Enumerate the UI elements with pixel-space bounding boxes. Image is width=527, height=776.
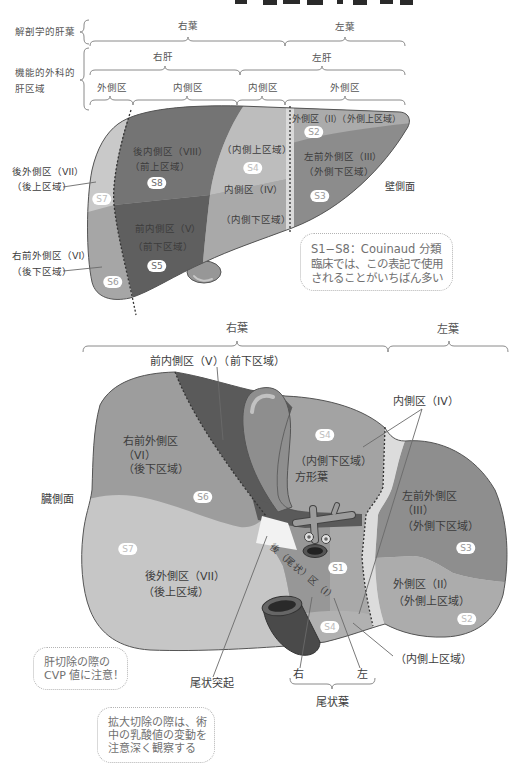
brace-right-lobe-bottom xyxy=(83,341,388,352)
lactate-note-line2: 中の乳酸値の変動を xyxy=(108,729,214,742)
segment-s4-quadrate-region xyxy=(277,385,385,515)
label-s6-name: 右前外側区 xyxy=(123,436,178,447)
caudate-right-label: 右 xyxy=(293,669,304,680)
badge-s7: S7 xyxy=(118,543,137,555)
badge-s2: S2 xyxy=(304,126,323,138)
label-s6-area: （後下区域） xyxy=(123,464,189,475)
caudate-left-label: 左 xyxy=(357,669,368,680)
header-section-right-lateral: 外側区 xyxy=(97,83,127,93)
brace-section-3 xyxy=(237,96,285,105)
label-s6-number: （VI） xyxy=(123,450,156,461)
header-section-left-medial: 内側区 xyxy=(248,83,278,93)
label-s5-name: 前内側区（V） xyxy=(135,224,202,234)
badge-s6: S6 xyxy=(103,276,122,288)
badge-s4: S4 xyxy=(243,162,262,174)
badge-s4: S4 xyxy=(315,429,334,441)
header-right-liver: 右肝 xyxy=(153,52,173,62)
brace-anatomical-vertical xyxy=(80,20,89,44)
badge-s5: S5 xyxy=(147,260,166,272)
brace-left-liver xyxy=(240,66,405,75)
badge-s8: S8 xyxy=(147,177,166,189)
bottom-left-lobe-label: 左葉 xyxy=(437,324,459,335)
brace-right-liver xyxy=(90,66,240,75)
brace-section-4 xyxy=(285,96,405,105)
label-s3-name: 左前外側区 xyxy=(402,491,457,502)
visceral-surface-label: 臓側面 xyxy=(41,494,74,505)
brace-left-lobe xyxy=(285,37,405,46)
badge-s1: S1 xyxy=(328,562,347,574)
callout-s4: 内側区（IV） xyxy=(393,396,459,407)
label-s4-area: （内側下区域） xyxy=(295,456,372,467)
label-s7-area: （後上区域） xyxy=(143,587,209,598)
lactate-note-box: 拡大切除の際は、術 中の乳酸値の変動を 注意深く観察する xyxy=(97,707,215,763)
couinaud-note-line2: 臨床では、この表記で使用 xyxy=(311,257,452,272)
brace-functional-vertical xyxy=(80,48,89,110)
parietal-surface-label: 壁側面 xyxy=(385,182,415,192)
brace-left-lobe-bottom xyxy=(388,341,508,352)
label-s3-area: （外側下区域） xyxy=(402,521,479,532)
label-s3-number: （III） xyxy=(402,505,434,516)
side-label-s7-area: （後上区域） xyxy=(12,182,72,192)
label-quadrate-lobe: 方形葉 xyxy=(295,472,328,483)
badge-s2: S2 xyxy=(457,613,476,625)
header-left-lobe: 左葉 xyxy=(335,22,355,32)
badge-s4-lower: S4 xyxy=(320,621,339,633)
side-label-s6-area: （後下区域） xyxy=(12,267,72,277)
header-braces xyxy=(80,20,405,110)
brace-section-1 xyxy=(90,96,133,105)
label-s4-name: 内側区（IV） xyxy=(224,185,283,195)
label-s5-area: （前下区域） xyxy=(133,242,193,252)
badge-s6: S6 xyxy=(193,491,212,503)
label-s4-lower-area: （内側下区域） xyxy=(221,215,291,225)
couinaud-note-line3: されることがいちばん多い xyxy=(311,271,452,286)
brace-section-2 xyxy=(133,96,237,105)
badge-s3: S3 xyxy=(456,542,475,554)
callout-caudate-process: 尾状突起 xyxy=(190,678,234,689)
header-left-liver: 左肝 xyxy=(312,53,332,63)
side-label-s6-name: 右前外側区（VI） xyxy=(12,251,91,261)
lactate-note-line1: 拡大切除の際は、術 xyxy=(108,716,214,729)
label-s2-area: （外側上区域） xyxy=(393,596,470,607)
header-right-lobe: 右葉 xyxy=(178,21,198,31)
label-s3-area: （外側下区域） xyxy=(304,167,374,177)
cvp-note-box: 肝切除の際の CVP 値に注意！ xyxy=(33,647,128,690)
label-s3-name: 左前外側区（III） xyxy=(304,152,382,162)
badge-s7: S7 xyxy=(92,193,111,205)
callout-s4-upper-area: （内側上区域） xyxy=(395,654,472,665)
couinaud-note-box: S1−S8：Couinaud 分類 臨床では、この表記で使用 されることがいちば… xyxy=(300,233,453,291)
functional-region-heading-line2: 肝区域 xyxy=(15,84,45,94)
badge-s3: S3 xyxy=(310,190,329,202)
label-s2: 外側区（II）（外側上区域） xyxy=(292,115,401,124)
callout-s5: 前内側区（V）（前下区域） xyxy=(150,356,285,367)
cropped-title-fragment xyxy=(235,0,413,5)
lactate-note-line3: 注意深く観察する xyxy=(108,742,214,755)
brace-right-lobe xyxy=(90,37,285,46)
label-s4-upper-area: （内側上区域） xyxy=(222,145,292,155)
side-label-s7-name: 後外側区（VII） xyxy=(12,167,84,177)
couinaud-note-line1: S1−S8：Couinaud 分類 xyxy=(311,242,452,257)
caudate-lobe-label: 尾状葉 xyxy=(316,697,349,708)
bottom-right-lobe-label: 右葉 xyxy=(226,323,248,334)
label-s8-name: 後内側区（VIII） xyxy=(133,147,208,157)
header-section-right-medial: 内側区 xyxy=(173,83,203,93)
anatomical-lobe-heading: 解剖学的肝葉 xyxy=(15,27,75,37)
header-section-left-lateral: 外側区 xyxy=(330,83,360,93)
label-s7-name: 後外側区（VII） xyxy=(145,571,225,582)
cvp-note-line2: CVP 値に注意！ xyxy=(44,669,127,682)
liver-segments-figure: 解剖学的肝葉 機能的外科的 肝区域 右葉 左葉 右肝 左肝 外側区 内側区 内側… xyxy=(0,0,527,776)
label-s8-area: （前上区域） xyxy=(130,162,190,172)
cvp-note-line1: 肝切除の際の xyxy=(44,656,127,669)
label-s2-name: 外側区（II） xyxy=(393,579,455,590)
functional-region-heading-line1: 機能的外科的 xyxy=(15,68,75,78)
